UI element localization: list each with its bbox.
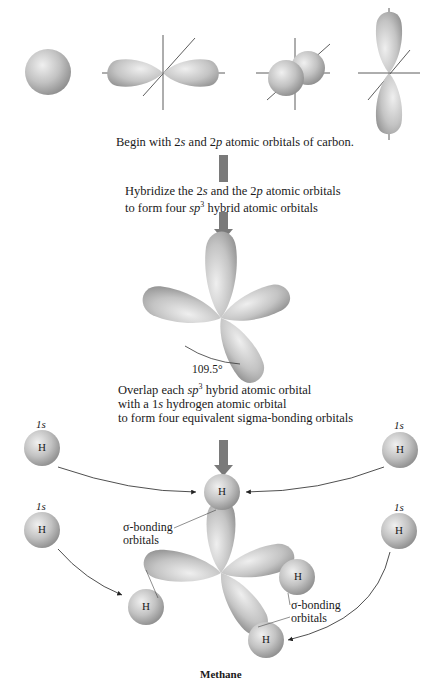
2s-orbital [25, 49, 71, 95]
hydrogen-symbol: H [256, 633, 276, 645]
methane-molecule [128, 474, 315, 658]
2px-orbital [102, 35, 225, 110]
curved-arrow [58, 549, 122, 595]
sigma-bonding-label-right: σ-bonding orbitals [291, 599, 341, 625]
hydrogen-symbol: H [136, 600, 156, 612]
caption-methane: Methane [200, 667, 242, 681]
hydrogen-symbol: H [32, 441, 52, 453]
sigma-bonding-label-left: σ-bonding orbitals [123, 521, 173, 547]
2pz-orbital [358, 8, 420, 140]
down-arrow-icon [219, 155, 228, 182]
hydrogen-symbol: H [390, 443, 410, 455]
step2-text: Hybridize the 2s and the 2p atomic orbit… [125, 184, 341, 215]
orbital-diagram [0, 0, 435, 683]
orbital-label-1s: 1s [36, 500, 46, 512]
curved-arrow [246, 467, 384, 492]
step3-text: Overlap each sp3 hybrid atomic orbital w… [118, 380, 353, 425]
bond-angle-label: 109.5° [192, 362, 222, 376]
hydrogen-symbol: H [32, 523, 52, 535]
step1-text: Begin with 2s and 2p atomic orbitals of … [116, 135, 354, 149]
down-arrow-icon [214, 440, 233, 476]
hydrogen-symbol: H [389, 524, 409, 536]
orbital-label-1s: 1s [394, 419, 404, 431]
hydrogen-symbol: H [288, 570, 308, 582]
orbital-label-1s: 1s [394, 501, 404, 513]
2py-orbital [256, 38, 330, 110]
curved-arrow [58, 467, 196, 492]
hydrogen-symbol: H [212, 485, 232, 497]
orbital-label-1s: 1s [36, 418, 46, 430]
